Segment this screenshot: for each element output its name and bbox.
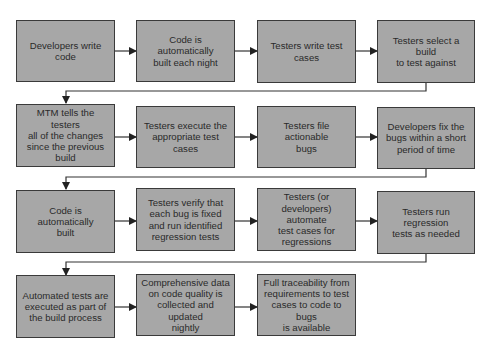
step-automated-tests-in-build: Automated tests are executed as part of … [16,275,115,338]
step-comprehensive-quality-data: Comprehensive data on code quality is co… [136,274,235,336]
step-mtm-tells-changes: MTM tells the testers all of the changes… [16,104,115,167]
step-label: Code is automatically built each night [141,34,230,68]
step-testers-run-regression: Testers run regression tests as needed [377,191,475,254]
step-label: Testers verify that each bug is fixed an… [148,197,223,242]
step-label: Testers file actionable bugs [262,120,351,154]
step-testers-file-bugs: Testers file actionable bugs [257,106,356,168]
step-label: Testers (or developers) automate test ca… [262,191,351,247]
arrow-s4-s5 [66,82,426,103]
step-label: Developers write code [30,40,101,62]
step-label: Developers fix the bugs within a short p… [386,121,466,155]
step-developers-fix-bugs: Developers fix the bugs within a short p… [377,107,475,169]
step-label: Testers execute the appropriate test cas… [141,120,230,154]
step-code-built-nightly: Code is automatically built each night [136,20,235,82]
step-label: Full traceability from requirements to t… [262,277,351,333]
step-developers-write-code: Developers write code [16,20,115,82]
step-label: Automated tests are executed as part of … [23,290,109,324]
step-automate-test-cases: Testers (or developers) automate test ca… [257,188,356,251]
step-label: Testers write test cases [271,40,343,62]
step-testers-verify-bugs: Testers verify that each bug is fixed an… [136,188,235,251]
step-full-traceability: Full traceability from requirements to t… [257,274,356,336]
step-testers-execute-test-cases: Testers execute the appropriate test cas… [136,106,235,168]
arrow-s12-s13 [66,253,426,275]
step-label: Comprehensive data on code quality is co… [141,277,230,333]
step-testers-select-build: Testers select a build to test against [377,20,475,83]
step-code-automatically-built: Code is automatically built [16,190,115,253]
step-label: MTM tells the testers all of the changes… [21,107,110,163]
flowchart-canvas: Developers write code Code is automatica… [0,0,489,355]
step-label: Code is automatically built [21,205,110,239]
step-testers-write-test-cases: Testers write test cases [257,20,356,83]
step-label: Testers run regression tests as needed [382,206,470,240]
arrow-s8-s9 [66,169,426,189]
step-label: Testers select a build to test against [382,35,470,69]
